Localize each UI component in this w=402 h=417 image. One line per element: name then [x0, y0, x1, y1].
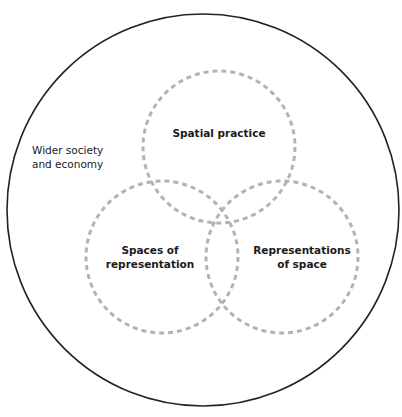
label-line: Spatial practice: [169, 126, 269, 140]
label-spatial-practice: Spatial practice: [169, 126, 269, 140]
label-representations-of-space: Representations of space: [252, 243, 352, 271]
label-line: representation: [100, 257, 200, 271]
label-line: of space: [252, 257, 352, 271]
label-line: Wider society: [32, 143, 103, 157]
circle-spatial-practice: [143, 71, 295, 223]
venn-diagram: [0, 0, 402, 417]
label-spaces-of-representation: Spaces of representation: [100, 243, 200, 271]
label-line: Spaces of: [100, 243, 200, 257]
label-wider-society: Wider society and economy: [32, 143, 103, 171]
label-line: and economy: [32, 157, 103, 171]
label-line: Representations: [252, 243, 352, 257]
